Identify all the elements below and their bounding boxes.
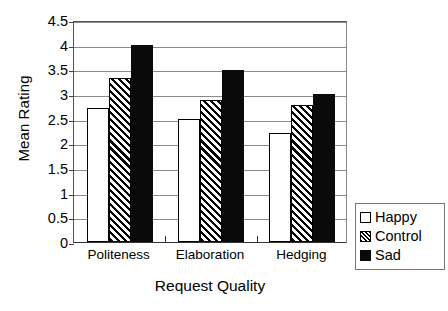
legend-swatch-icon <box>360 231 371 242</box>
bar <box>222 70 244 242</box>
bar-group <box>257 22 348 242</box>
legend-item: Happy <box>360 208 441 227</box>
bar <box>200 100 222 242</box>
y-tick-label: 3 <box>24 88 68 103</box>
bar <box>131 45 153 242</box>
legend-label: Sad <box>375 248 401 263</box>
legend-swatch-icon <box>360 212 371 223</box>
legend-label: Happy <box>375 210 417 225</box>
bars-layer <box>74 22 346 242</box>
legend-swatch-icon <box>360 250 371 261</box>
x-group-separator <box>257 236 258 242</box>
x-axis-tick-labels: PolitenessElaborationHedging <box>73 248 347 268</box>
bar <box>109 78 131 242</box>
y-tick-label: 1.5 <box>24 162 68 177</box>
x-tick-label: Hedging <box>276 248 326 262</box>
legend-item: Sad <box>360 246 441 265</box>
y-tick-label: 2 <box>24 137 68 152</box>
x-axis-title: Request Quality <box>73 277 347 295</box>
bar <box>269 133 291 242</box>
bar <box>291 105 313 242</box>
x-tick-label: Elaboration <box>176 248 244 262</box>
x-tick-label: Politeness <box>88 248 150 262</box>
y-tick-label: 4.5 <box>24 14 68 29</box>
bar-group <box>165 22 256 242</box>
bar <box>87 108 109 242</box>
bar-group <box>74 22 165 242</box>
legend-label: Control <box>375 229 422 244</box>
bar-chart: Mean Rating 00.511.522.533.544.5 Politen… <box>0 0 448 311</box>
y-axis-tick-labels: 00.511.522.533.544.5 <box>24 21 68 243</box>
y-tick-label: 1 <box>24 186 68 201</box>
chart-legend: HappyControlSad <box>355 203 445 270</box>
y-tick-label: 3.5 <box>24 63 68 78</box>
y-tick-label: 4 <box>24 38 68 53</box>
y-tick-mark <box>69 244 74 245</box>
y-tick-label: 0 <box>24 236 68 251</box>
bar <box>178 119 200 242</box>
y-tick-label: 2.5 <box>24 112 68 127</box>
plot-area <box>73 21 347 243</box>
legend-item: Control <box>360 227 441 246</box>
x-group-separator <box>165 236 166 242</box>
y-tick-label: 0.5 <box>24 211 68 226</box>
bar <box>313 94 335 242</box>
